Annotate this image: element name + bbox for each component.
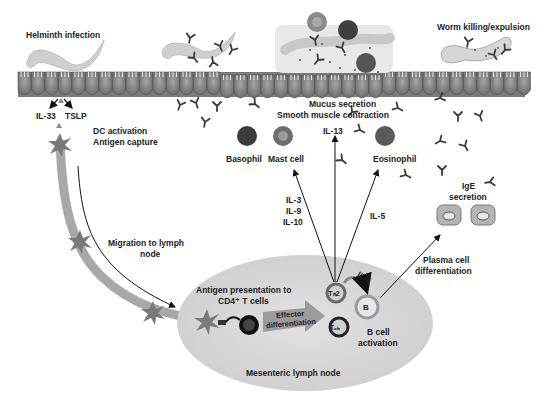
label-mast-cell: Mast cell: [268, 154, 304, 165]
label-mucus: Mucus secretion: [309, 99, 376, 110]
label-plasma-1: Plasma cell: [423, 255, 469, 266]
label-ige-2: secretion: [449, 192, 487, 203]
label-dc-activation: DC activation: [93, 126, 147, 137]
label-migration-2: node: [140, 249, 160, 260]
dying-worm-icon: [441, 37, 511, 62]
basophil-icon: [237, 126, 257, 146]
label-il9: IL-9: [286, 206, 301, 217]
label-lymph-node: Mesenteric lymph node: [246, 368, 340, 379]
label-antigen-pres-1: Antigen presentation to: [196, 285, 291, 296]
label-antigen-pres-2: CD4⁺ T cells: [218, 296, 269, 307]
label-basophil: Basophil: [226, 154, 262, 165]
dendritic-cell-icon: [48, 133, 72, 157]
basophil-granular-icon: [338, 20, 358, 40]
cd4-t-cell-icon: [241, 317, 257, 333]
label-plasma-2: differentiation: [415, 266, 472, 277]
label-migration-1: Migration to lymph: [108, 238, 184, 249]
label-antigen-capture: Antigen capture: [93, 137, 158, 148]
label-tfh: Tₒₕ: [330, 322, 340, 333]
label-b-cell-2: activation: [358, 338, 398, 349]
label-smooth-muscle: Smooth muscle contraction: [277, 110, 389, 121]
label-eosinophil: Eosinophil: [373, 154, 416, 165]
label-helminth-infection: Helminth infection: [26, 30, 100, 41]
label-ige-1: IgE: [462, 181, 475, 192]
label-il3: IL-3: [286, 195, 301, 206]
eosinophil-icon: [375, 126, 395, 146]
worm-antibody-coated-icon: [162, 32, 235, 59]
label-il10: IL-10: [283, 217, 303, 228]
helminth-worm-icon: [27, 40, 104, 71]
label-worm-killing: Worm killing/expulsion: [437, 22, 530, 33]
label-b-cell-1: B cell: [367, 327, 390, 338]
epithelium-layer: [18, 72, 531, 98]
label-b: B: [363, 302, 369, 313]
label-il33: IL-33: [36, 111, 56, 122]
label-th2: Tₕ2: [328, 288, 340, 299]
label-il13: IL-13: [323, 126, 343, 137]
label-il5: IL-5: [370, 211, 385, 222]
eosinophil-granular-icon: [356, 53, 376, 73]
label-tslp: TSLP: [65, 111, 87, 122]
plasma-cell-icon: [437, 205, 495, 225]
